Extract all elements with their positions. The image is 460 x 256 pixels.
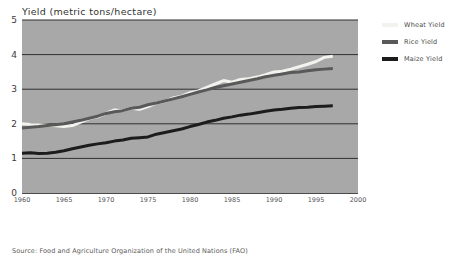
- chart-legend: Wheat YieldRice YieldMaize Yield: [382, 16, 458, 67]
- legend-swatch: [382, 57, 398, 61]
- x-tick-label: 1965: [56, 196, 73, 204]
- x-tick-label: 1975: [140, 196, 157, 204]
- series-line: [22, 68, 333, 128]
- y-tick-label: 4: [11, 50, 17, 60]
- x-tick-label: 1985: [224, 196, 241, 204]
- legend-item[interactable]: Rice Yield: [382, 33, 458, 50]
- x-tick-label: 1980: [182, 196, 199, 204]
- x-tick-label: 1990: [266, 196, 283, 204]
- legend-item[interactable]: Wheat Yield: [382, 16, 458, 33]
- legend-swatch: [382, 40, 398, 44]
- legend-label: Rice Yield: [404, 38, 437, 46]
- series-line: [22, 106, 333, 154]
- legend-label: Wheat Yield: [404, 21, 445, 29]
- y-tick-label: 3: [11, 84, 17, 94]
- y-tick-label: 1: [11, 153, 17, 163]
- x-tick-label: 1960: [14, 196, 31, 204]
- series-line: [22, 56, 333, 126]
- legend-item[interactable]: Maize Yield: [382, 50, 458, 67]
- series-lines: [22, 56, 333, 153]
- plot-svg: [22, 20, 358, 193]
- x-tick-label: 1995: [308, 196, 325, 204]
- y-tick-label: 2: [11, 119, 17, 129]
- chart-title: Yield (metric tons/hectare): [22, 6, 157, 17]
- x-tick-label: 1970: [98, 196, 115, 204]
- source-note: Source: Food and Agriculture Organizatio…: [12, 247, 248, 255]
- gridlines: [22, 20, 358, 158]
- plot-wrap: 543210 196019651970197519801985199019952…: [22, 20, 358, 193]
- chart-figure: Yield (metric tons/hectare) 543210 19601…: [0, 0, 460, 256]
- legend-label: Maize Yield: [404, 55, 443, 63]
- x-axis-line: [22, 193, 358, 194]
- y-tick-label: 5: [11, 15, 17, 25]
- legend-swatch: [382, 23, 398, 27]
- x-tick-label: 2000: [350, 196, 367, 204]
